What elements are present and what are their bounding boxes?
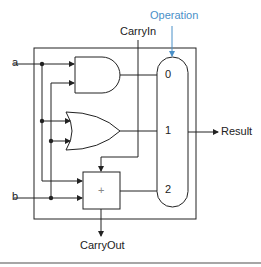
result-label: Result xyxy=(221,126,252,137)
input-b-label: b xyxy=(12,191,18,202)
operation-label: Operation xyxy=(150,10,198,21)
carry-out-label: CarryOut xyxy=(80,240,125,251)
carry-in-label: CarryIn xyxy=(120,26,156,37)
alu-outer-box xyxy=(34,48,196,219)
adder-plus-symbol: + xyxy=(98,185,104,196)
and-gate xyxy=(75,57,120,93)
input-a-label: a xyxy=(12,57,18,68)
or-gate xyxy=(66,112,120,150)
mux-input-1-label: 1 xyxy=(165,125,171,136)
multiplexer xyxy=(157,57,188,207)
mux-input-0-label: 0 xyxy=(165,69,171,80)
mux-input-2-label: 2 xyxy=(165,184,171,195)
